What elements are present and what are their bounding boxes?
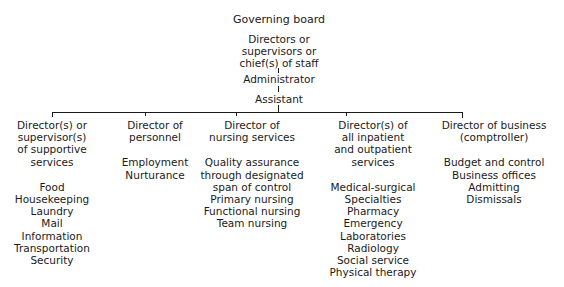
branch-inpatient-outpatient: Director(s) of all inpatient and outpati… — [330, 119, 417, 278]
branch-items: Budget and control Business offices Admi… — [442, 156, 547, 205]
title-line: all inpatient — [330, 131, 417, 143]
title-line: nursing services — [200, 131, 303, 143]
title-line: supervisor(s) — [14, 131, 90, 143]
branch-title: Director(s) of all inpatient and outpati… — [330, 119, 417, 168]
branch-items: Food Housekeeping Laundry Mail Informati… — [14, 181, 90, 266]
branch-title: Director of business (comptroller) — [442, 119, 547, 143]
title-line: and outpatient — [330, 143, 417, 155]
list-item: Laundry — [14, 205, 90, 217]
list-item: Security — [14, 254, 90, 266]
list-item: Functional nursing — [200, 205, 303, 217]
list-item: Emergency — [330, 217, 417, 229]
horizontal-bus — [52, 112, 463, 113]
title-line: Director of — [122, 119, 189, 131]
branch-items: Employment Nurturance — [122, 156, 189, 180]
title-line: Director(s) of — [330, 119, 417, 131]
list-item: Food — [14, 181, 90, 193]
list-item: span of control — [200, 181, 303, 193]
list-item: Specialties — [330, 193, 417, 205]
title-line: Director(s) or — [14, 119, 90, 131]
list-item: Employment — [122, 156, 189, 168]
tick-nursing — [236, 112, 237, 116]
list-item: Transportation — [14, 242, 90, 254]
branch-items: Quality assurance through designated spa… — [200, 156, 303, 229]
node-administrator: Administrator — [243, 73, 315, 85]
list-item: Quality assurance — [200, 156, 303, 168]
branch-items: Medical-surgical Specialties Pharmacy Em… — [330, 181, 417, 279]
title-line: (comptroller) — [442, 131, 547, 143]
connector-assistant-bus — [278, 105, 279, 112]
list-item: Admitting — [442, 181, 547, 193]
tick-supportive — [52, 112, 53, 117]
branch-business: Director of business (comptroller) Budge… — [442, 119, 547, 205]
node-assistant: Assistant — [255, 93, 303, 105]
directors-line-1: Directors or — [239, 33, 318, 45]
branch-title: Director of personnel — [122, 119, 189, 143]
branch-personnel: Director of personnel Employment Nurtura… — [122, 119, 189, 181]
assistant-label: Assistant — [255, 93, 303, 105]
title-line: services — [330, 156, 417, 168]
list-item: Housekeeping — [14, 193, 90, 205]
directors-line-3: chief(s) of staff — [239, 57, 318, 69]
tick-business — [462, 112, 463, 118]
list-item: Nurturance — [122, 169, 189, 181]
title-line: Director of — [200, 119, 303, 131]
branch-supportive-services: Director(s) or supervisor(s) of supporti… — [14, 119, 90, 266]
directors-line-2: supervisors or — [239, 45, 318, 57]
title-line: Director of business — [442, 119, 547, 131]
list-item: Information — [14, 230, 90, 242]
title-line: of supportive — [14, 143, 90, 155]
list-item: Team nursing — [200, 217, 303, 229]
node-governing-board: Governing board — [233, 14, 325, 26]
list-item: Social service — [330, 254, 417, 266]
title-line: personnel — [122, 131, 189, 143]
tick-personnel — [145, 112, 146, 116]
tick-inpatient — [346, 112, 347, 116]
list-item: Mail — [14, 217, 90, 229]
list-item: Laboratories — [330, 230, 417, 242]
list-item: Budget and control — [442, 156, 547, 168]
list-item: Dismissals — [442, 193, 547, 205]
list-item: Pharmacy — [330, 205, 417, 217]
list-item: through designated — [200, 169, 303, 181]
connector-administrator-assistant — [278, 86, 279, 92]
list-item: Business offices — [442, 169, 547, 181]
branch-title: Director of nursing services — [200, 119, 303, 143]
list-item: Medical-surgical — [330, 181, 417, 193]
governing-board-label: Governing board — [233, 13, 325, 26]
branch-nursing-services: Director of nursing services Quality ass… — [200, 119, 303, 230]
list-item: Primary nursing — [200, 193, 303, 205]
administrator-label: Administrator — [243, 73, 315, 85]
list-item: Physical therapy — [330, 266, 417, 278]
branch-title: Director(s) or supervisor(s) of supporti… — [14, 119, 90, 168]
title-line: services — [14, 156, 90, 168]
list-item: Radiology — [330, 242, 417, 254]
node-directors-of-staff: Directors or supervisors or chief(s) of … — [239, 33, 318, 70]
